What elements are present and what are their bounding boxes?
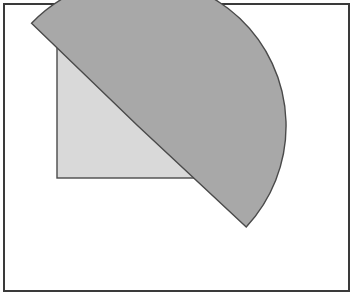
shapes-figure [0,0,362,298]
figure-canvas [0,0,362,298]
